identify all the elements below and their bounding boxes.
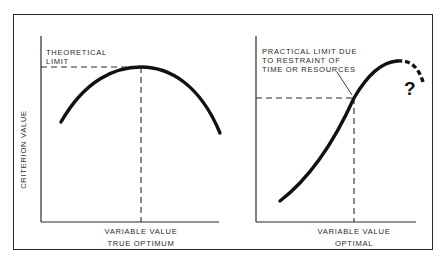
annotation-leader-line (337, 72, 352, 95)
left-panel-caption: TRUE OPTIMUM (107, 239, 174, 248)
right-panel-guides (256, 98, 354, 222)
right-panel-caption: OPTIMAL (335, 239, 373, 248)
right-panel-curve (280, 61, 397, 201)
theoretical-limit-annotation: THEORETICAL LIMIT (46, 48, 107, 66)
diagram-canvas (0, 0, 448, 264)
question-mark-icon: ? (404, 78, 416, 100)
left-panel-guides (41, 67, 141, 222)
left-x-axis-label: VARIABLE VALUE (105, 227, 178, 236)
right-x-axis-label: VARIABLE VALUE (318, 227, 391, 236)
practical-limit-annotation: PRACTICAL LIMIT DUE TO RESTRAINT OF TIME… (262, 47, 357, 74)
y-axis-label: CRITERION VALUE (19, 110, 28, 189)
